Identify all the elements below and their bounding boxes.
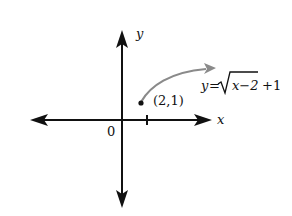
graph-canvas: y x 0 (2,1) y = x−2 +1 <box>0 0 292 216</box>
equation-y: y <box>200 78 209 93</box>
equation-radicand: x−2 <box>232 78 259 93</box>
point-label: (2,1) <box>153 93 184 108</box>
equation-plus-one: +1 <box>262 78 281 93</box>
equation-equals: = <box>209 78 220 93</box>
x-axis-label: x <box>217 112 225 127</box>
origin-label: 0 <box>107 124 115 139</box>
y-axis-label: y <box>135 26 144 41</box>
equation-label: y = x−2 +1 <box>200 72 281 93</box>
start-point-dot <box>138 100 143 105</box>
